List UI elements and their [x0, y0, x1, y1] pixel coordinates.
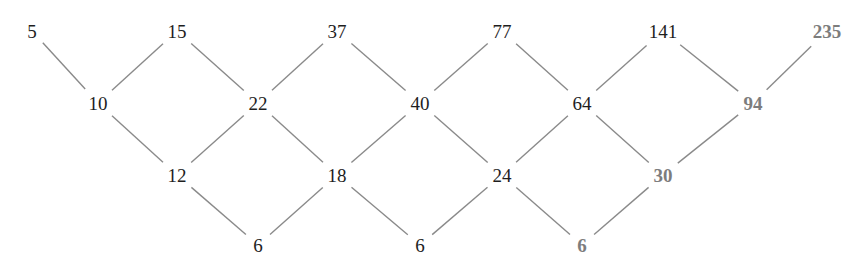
lattice-edge — [596, 116, 649, 163]
lattice-edge — [272, 44, 323, 90]
lattice-edge — [594, 187, 649, 234]
lattice-node-r2c1: 18 — [328, 166, 347, 185]
lattice-edge — [516, 44, 568, 91]
lattice-edge — [516, 188, 570, 235]
lattice-edge — [680, 45, 738, 91]
lattice-edge — [351, 44, 405, 91]
lattice-edge — [191, 116, 244, 163]
lattice-edge — [272, 116, 323, 162]
lattice-edge — [112, 116, 163, 162]
lattice-node-r1c1: 22 — [249, 94, 268, 113]
lattice-edge — [351, 116, 405, 163]
lattice-edge — [270, 188, 323, 235]
lattice-node-r2c0: 12 — [168, 166, 187, 185]
lattice-edge — [767, 46, 812, 90]
lattice-edge — [191, 44, 244, 91]
lattice-node-r1c0: 10 — [89, 94, 108, 113]
lattice-edge — [678, 115, 738, 163]
difference-lattice-diagram: 5153777141235102240649412182430666 — [0, 0, 860, 268]
lattice-edges — [0, 0, 860, 268]
lattice-edge — [434, 116, 487, 163]
lattice-node-r0c0: 5 — [27, 22, 37, 41]
lattice-edge — [434, 44, 487, 91]
lattice-edge — [352, 187, 408, 235]
lattice-node-r0c5: 235 — [813, 22, 842, 41]
lattice-edge — [191, 187, 246, 234]
lattice-node-r1c2: 40 — [411, 94, 430, 113]
lattice-edge — [596, 46, 646, 91]
lattice-node-r2c3: 30 — [654, 166, 673, 185]
lattice-node-r2c2: 24 — [493, 166, 512, 185]
lattice-node-r3c1: 6 — [415, 236, 425, 255]
lattice-node-r1c3: 64 — [573, 94, 592, 113]
lattice-node-r0c3: 77 — [493, 22, 512, 41]
lattice-node-r3c2: 6 — [577, 236, 587, 255]
lattice-edge — [432, 187, 487, 234]
lattice-node-r3c0: 6 — [253, 236, 263, 255]
lattice-node-r0c1: 15 — [168, 22, 187, 41]
lattice-node-r0c2: 37 — [328, 22, 347, 41]
lattice-node-r1c4: 94 — [744, 94, 763, 113]
lattice-edge — [112, 44, 163, 90]
lattice-node-r0c4: 141 — [649, 22, 678, 41]
lattice-edge — [43, 43, 85, 89]
lattice-edge — [516, 116, 568, 163]
